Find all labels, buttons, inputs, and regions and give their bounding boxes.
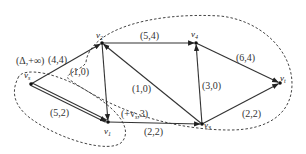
node-mark-label-vs: (Δ,+∞) (16, 55, 44, 67)
node-label-vt: vt (280, 73, 286, 84)
node-mark-label-v1: (+vs,3) (121, 108, 148, 120)
edge-v1-v3 (108, 122, 200, 124)
edge-label-v2-v1: (1,0) (70, 66, 89, 78)
node-label-v3: v3 (204, 120, 211, 131)
edge-label-v1-v3: (2,2) (144, 126, 163, 138)
node-label-v4: v4 (191, 29, 198, 40)
node-label-v2: v2 (96, 30, 103, 41)
edge-label-v3-v4: (3,0) (202, 80, 221, 92)
node-label-v1: v1 (104, 126, 111, 137)
node-v1 (106, 120, 110, 124)
flow-network-diagram: (4,4)(5,2)(1,0)(5,4)(1,0)(2,2)(3,0)(6,4)… (0, 0, 306, 154)
edge-label-v3-vt: (2,2) (242, 108, 261, 120)
edge-label-vs-v2: (4,4) (48, 54, 67, 66)
edge-label-v4-vt: (6,4) (236, 52, 255, 64)
nodes: vsv2v4vtv1v3 (24, 29, 286, 137)
edge-label-v2-v4: (5,4) (140, 30, 159, 42)
edge-label-vs-v1: (5,2) (50, 107, 69, 119)
edge-v3-v2 (104, 44, 202, 124)
node-vs (29, 82, 33, 86)
edge-v2-v1 (102, 43, 108, 120)
edge-label-v3-v2: (1,0) (132, 83, 151, 95)
node-v4 (194, 41, 198, 45)
edge-labels: (4,4)(5,2)(1,0)(5,4)(1,0)(2,2)(3,0)(6,4)… (48, 30, 261, 138)
node-v2 (100, 41, 104, 45)
edge-vs-v1-second-line (32, 83, 107, 120)
